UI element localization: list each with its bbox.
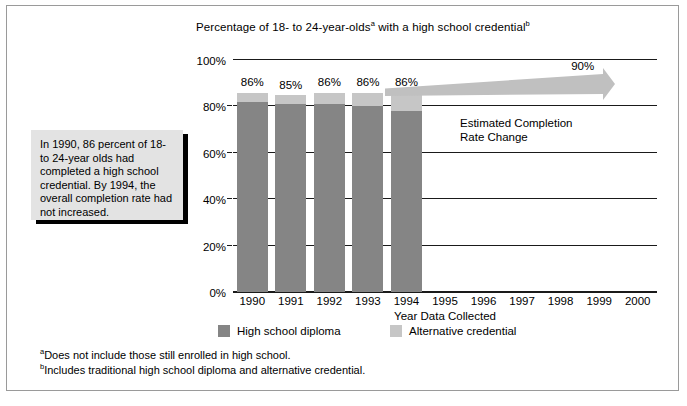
x-axis-title: Year Data Collected [233, 310, 657, 322]
bar-value-label: 86% [318, 76, 341, 88]
bar-1992 [314, 92, 345, 292]
bar-segment-diploma [391, 111, 422, 292]
bar-segment-alternative [314, 93, 345, 105]
bar-segment-alternative [237, 93, 268, 102]
y-axis-tick-label: 100% [197, 55, 226, 67]
x-axis-tick-label: 1990 [230, 295, 274, 307]
bar-segment-diploma [275, 104, 306, 292]
chart-title-mid: with a high school credential [375, 21, 526, 33]
bar-value-label: 85% [279, 79, 302, 91]
projection-annotation-line2: Rate Change [460, 130, 573, 144]
y-axis-tick [227, 152, 232, 153]
legend-swatch [390, 325, 402, 337]
y-axis-tick-label: 60% [203, 148, 226, 160]
y-axis-tick-label: 80% [203, 101, 226, 113]
x-axis-line [233, 292, 657, 293]
legend-label: Alternative credential [409, 325, 516, 337]
bar-value-label: 86% [241, 76, 264, 88]
projection-annotation: Estimated Completion Rate Change [460, 116, 573, 144]
x-axis-tick-label: 1995 [423, 295, 467, 307]
chart-figure: Percentage of 18- to 24-year-oldsa with … [0, 0, 687, 406]
bar-segment-diploma [352, 106, 383, 292]
bar-segment-alternative [352, 93, 383, 107]
x-axis-tick-label: 1993 [346, 295, 390, 307]
bar-segment-alternative [275, 95, 306, 104]
x-axis-tick-label: 1994 [384, 295, 428, 307]
chart-title: Percentage of 18- to 24-year-oldsa with … [196, 21, 530, 33]
y-axis-tick-label: 0% [209, 287, 226, 299]
x-axis-tick-label: 1992 [307, 295, 351, 307]
bar-value-label: 86% [395, 76, 418, 88]
bar-1990 [237, 92, 268, 292]
bar-segment-diploma [314, 104, 345, 292]
footnote: aDoes not include those still enrolled i… [40, 348, 365, 363]
x-axis-tick-label: 2000 [616, 295, 660, 307]
x-axis-tick-label: 1997 [500, 295, 544, 307]
bar-value-label: 86% [356, 76, 379, 88]
chart-title-main: Percentage of 18- to 24-year-olds [196, 21, 371, 33]
y-axis-tick [227, 245, 232, 246]
x-axis-tick-label: 1998 [539, 295, 583, 307]
legend-label: High school diploma [237, 325, 341, 337]
legend-item: Alternative credential [390, 325, 516, 337]
bar-segment-diploma [237, 102, 268, 292]
x-axis-tick-label: 1991 [269, 295, 313, 307]
y-axis-labels: 0%20%40%60%80%100% [186, 60, 226, 292]
plot-area: 86%85%86%86%86% [233, 60, 657, 292]
callout-box: In 1990, 86 percent of 18- to 24-year ol… [31, 130, 183, 220]
legend-swatch [218, 325, 230, 337]
x-axis-tick-label: 1996 [462, 295, 506, 307]
bar-1993 [352, 92, 383, 292]
chart-title-footnote-marker-b: b [526, 19, 530, 28]
bar-segment-alternative [391, 93, 422, 112]
y-axis-tick [227, 198, 232, 199]
clipped-source-line [10, 398, 410, 406]
bar-1991 [275, 95, 306, 292]
x-axis-tick-label: 1999 [577, 295, 621, 307]
bar-1994 [391, 92, 422, 292]
projection-end-value: 90% [571, 60, 594, 72]
callout-text: In 1990, 86 percent of 18- to 24-year ol… [40, 138, 172, 218]
projection-annotation-line1: Estimated Completion [460, 116, 573, 130]
y-axis-tick [227, 105, 232, 106]
legend-item: High school diploma [218, 325, 341, 337]
y-axis-tick-label: 20% [203, 241, 226, 253]
footnote-text: Does not include those still enrolled in… [44, 349, 290, 361]
footnotes: aDoes not include those still enrolled i… [40, 348, 365, 377]
footnote-text: Includes traditional high school diploma… [44, 364, 365, 376]
footnote: bIncludes traditional high school diplom… [40, 363, 365, 378]
y-axis-tick-label: 40% [203, 194, 226, 206]
